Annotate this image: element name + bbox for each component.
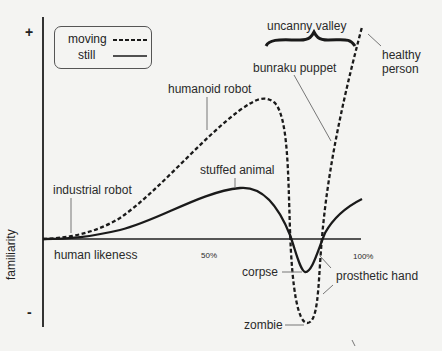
y-minus-marker: - — [27, 305, 32, 319]
legend-moving-swatch — [113, 38, 147, 42]
label-stuffed-animal: stuffed animal — [200, 164, 275, 176]
bunraku-puppet-leader — [294, 75, 331, 141]
legend-moving-label: moving — [68, 33, 107, 45]
legend: moving still — [54, 26, 152, 69]
legend-still-label: still — [78, 49, 95, 61]
healthy-person-leader — [368, 34, 381, 46]
x-axis-label: human likeness — [54, 249, 137, 261]
y-axis-label: familiarity — [4, 229, 18, 280]
label-healthy-person: healthy person — [382, 48, 432, 76]
uncanny-valley-brace — [266, 32, 355, 46]
label-uncanny-valley: uncanny valley — [267, 20, 346, 32]
label-prosthetic-hand: prosthetic hand — [336, 270, 418, 282]
label-corpse: corpse — [242, 266, 278, 278]
label-industrial-robot: industrial robot — [53, 184, 132, 196]
x-tick-50: 50% — [201, 252, 217, 260]
prosthetic-hand-leader-1 — [320, 256, 331, 268]
label-humanoid-robot: humanoid robot — [168, 83, 251, 95]
y-plus-marker: + — [25, 25, 33, 39]
prosthetic-hand-leader-2 — [323, 285, 333, 294]
label-bunraku-puppet: bunraku puppet — [253, 62, 336, 74]
uncanny-valley-chart: moving still + - familiarity human liken… — [0, 0, 442, 351]
x-tick-100: 100% — [353, 253, 373, 261]
stray-mark — [352, 340, 355, 346]
label-zombie: zombie — [244, 319, 283, 331]
legend-still-swatch — [113, 54, 147, 58]
